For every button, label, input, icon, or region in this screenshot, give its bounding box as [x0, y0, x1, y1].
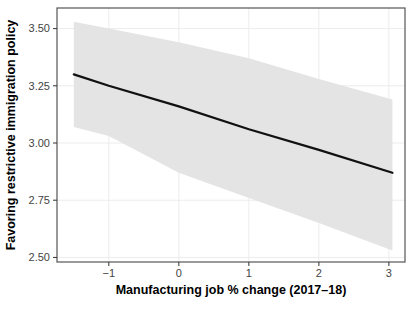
y-tick-label: 2.50 — [29, 251, 50, 263]
y-tick-label: 3.50 — [29, 22, 50, 34]
y-tick-label: 2.75 — [29, 194, 50, 206]
y-axis-title: Favoring restrictive immigration policy — [4, 20, 18, 251]
y-tick-label: 3.25 — [29, 80, 50, 92]
regression-figure: −101232.502.753.003.253.50 Manufacturing… — [0, 0, 418, 311]
y-tick-label: 3.00 — [29, 137, 50, 149]
x-tick-label: −1 — [103, 267, 116, 279]
x-tick-label: 1 — [246, 267, 252, 279]
chart-svg: −101232.502.753.003.253.50 — [0, 0, 418, 311]
x-tick-label: 3 — [386, 267, 392, 279]
x-axis-title: Manufacturing job % change (2017–18) — [116, 283, 347, 297]
x-tick-label: 0 — [176, 267, 182, 279]
x-tick-label: 2 — [316, 267, 322, 279]
